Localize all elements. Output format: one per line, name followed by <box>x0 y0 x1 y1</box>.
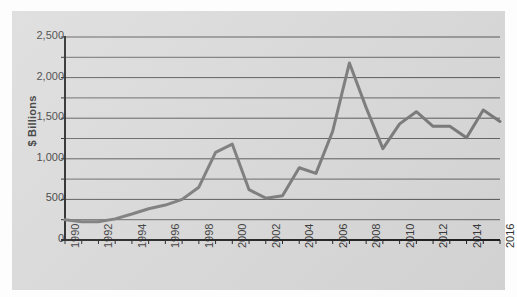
chart-plot-panel: $ Billions 05001,0001,5002,0002,500 1990… <box>12 11 505 290</box>
x-tick-label: 2016 <box>504 224 516 248</box>
line-plot-svg <box>12 11 505 290</box>
major-gridlines <box>65 37 500 199</box>
chart-figure: $ Billions 05001,0001,5002,0002,500 1990… <box>0 0 517 297</box>
data-series-line <box>65 63 500 222</box>
